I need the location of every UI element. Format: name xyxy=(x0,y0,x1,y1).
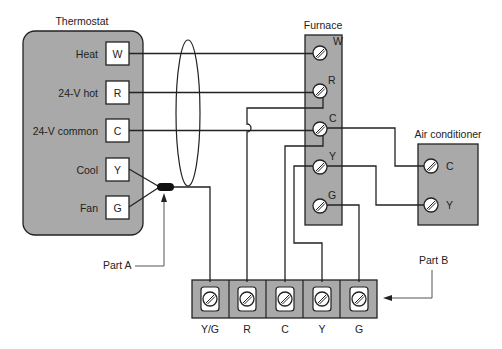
callout-part-b: Part B xyxy=(383,254,448,301)
air-conditioner-label-y: Y xyxy=(446,199,453,211)
furnace-label-g: G xyxy=(328,189,336,201)
thermostat-code-r: R xyxy=(114,87,122,99)
air-conditioner-label-c: C xyxy=(446,160,454,172)
thermostat-label-fan: Fan xyxy=(80,202,98,214)
wire-splice-to-strip-yg xyxy=(172,187,210,282)
part-b-label: Part B xyxy=(419,254,448,266)
part-b-arrowhead-icon xyxy=(383,295,392,301)
furnace-label-c: C xyxy=(329,112,337,124)
part-a-label: Part A xyxy=(103,259,132,271)
furnace-label-y: Y xyxy=(329,150,336,162)
strip-label-c: C xyxy=(281,323,289,335)
air-conditioner-panel xyxy=(418,144,478,225)
thermostat-code-c: C xyxy=(114,125,122,137)
thermostat-label-cool: Cool xyxy=(76,164,98,176)
part-a-arrowhead-icon xyxy=(161,193,167,202)
thermostat-code-y: Y xyxy=(114,164,121,176)
thermostat-code-g: G xyxy=(113,202,121,214)
thermostat-code-w: W xyxy=(113,48,123,60)
strip-label-yg: Y/G xyxy=(201,323,219,335)
air-conditioner-title: Air conditioner xyxy=(414,128,482,140)
thermostat-label-24v-common: 24-V common xyxy=(33,125,99,137)
wire-nut-splice xyxy=(157,183,174,191)
strip-label-r: R xyxy=(243,323,251,335)
cable-bundle-ellipse xyxy=(176,40,200,186)
furnace-title: Furnace xyxy=(304,19,343,31)
wires xyxy=(129,54,424,283)
thermostat-title: Thermostat xyxy=(55,15,108,27)
thermostat-label-heat: Heat xyxy=(76,48,98,60)
thermostat-label-24v-hot: 24-V hot xyxy=(58,87,98,99)
furnace-label-w: W xyxy=(333,35,343,47)
strip-label-y: Y xyxy=(318,323,325,335)
strip-label-g: G xyxy=(355,323,363,335)
wiring-diagram: Thermostat Heat W 24-V hot R 24-V common… xyxy=(0,0,502,349)
furnace-label-r: R xyxy=(328,74,336,86)
